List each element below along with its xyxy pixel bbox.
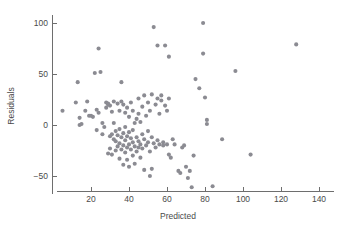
data-point [150, 135, 154, 139]
data-point [150, 92, 154, 96]
data-point [146, 101, 150, 105]
data-point [211, 184, 215, 188]
data-point [76, 80, 80, 84]
data-point [192, 154, 196, 158]
data-point [112, 121, 116, 125]
data-point [78, 116, 82, 120]
data-point [142, 168, 146, 172]
data-point [97, 111, 101, 115]
data-point [140, 105, 144, 109]
x-axis-tick-label: 120 [274, 194, 288, 204]
y-axis-tick-label: 100 [34, 18, 48, 28]
data-points-layer [60, 21, 298, 189]
data-point [138, 142, 142, 146]
data-point [110, 153, 114, 157]
data-point [140, 132, 144, 136]
data-point [165, 142, 169, 146]
data-point [184, 165, 188, 169]
data-point [154, 145, 158, 149]
data-point [98, 70, 102, 74]
data-point [205, 122, 209, 126]
data-point [171, 137, 175, 141]
data-point [163, 104, 167, 108]
data-point [173, 142, 177, 146]
data-point [123, 125, 127, 129]
data-point [112, 99, 116, 103]
data-point [148, 174, 152, 178]
data-point [193, 77, 197, 81]
data-point [123, 150, 127, 154]
data-point [95, 128, 99, 132]
data-point [233, 69, 237, 73]
data-point [133, 144, 137, 148]
data-point [188, 169, 192, 173]
data-point [133, 162, 137, 166]
data-point [169, 156, 173, 160]
data-point [163, 43, 167, 47]
x-axis-tick-label: 80 [200, 194, 210, 204]
data-point [135, 117, 139, 121]
data-point [150, 167, 154, 171]
data-point [91, 115, 95, 119]
data-point [161, 140, 165, 144]
data-point [142, 137, 146, 141]
data-point [146, 140, 150, 144]
y-axis-title: Residuals [6, 87, 16, 124]
data-point [133, 121, 137, 125]
data-point [100, 121, 104, 125]
data-point [186, 176, 190, 180]
x-axis: 20406080100120140 [57, 187, 334, 204]
data-point [117, 141, 121, 145]
data-point [106, 152, 110, 156]
data-point [129, 147, 133, 151]
data-point [74, 101, 78, 105]
data-point [201, 52, 205, 56]
data-point [144, 114, 148, 118]
data-point [131, 128, 135, 132]
data-point [131, 154, 135, 158]
data-point [294, 42, 298, 46]
data-point [152, 25, 156, 29]
data-point [155, 96, 159, 100]
x-axis-tick-label: 140 [312, 194, 326, 204]
x-axis-tick-label: 100 [236, 194, 250, 204]
data-point [205, 118, 209, 122]
data-point [148, 149, 152, 153]
data-point [110, 132, 114, 136]
y-axis-tick-label: 50 [39, 69, 49, 79]
data-point [123, 111, 127, 115]
data-point [167, 96, 171, 100]
data-point [129, 101, 133, 105]
data-point [121, 143, 125, 147]
data-point [140, 146, 144, 150]
data-point [119, 135, 123, 139]
data-point [159, 93, 163, 97]
data-point [148, 109, 152, 113]
data-point [116, 133, 120, 137]
data-point [138, 120, 142, 124]
data-point [121, 131, 125, 135]
data-point [79, 122, 83, 126]
scatter-plot-figure: −50050100 20406080100120140 Predicted Re… [0, 0, 350, 227]
data-point [201, 21, 205, 25]
y-axis: −50050100 [34, 15, 57, 195]
data-point [117, 127, 121, 131]
data-point [129, 136, 133, 140]
data-point [127, 130, 131, 134]
data-point [203, 95, 207, 99]
data-point [114, 148, 118, 152]
data-point [117, 157, 121, 161]
data-point [154, 103, 158, 107]
data-point [60, 109, 64, 113]
data-point [110, 110, 114, 114]
data-point [117, 109, 121, 113]
x-axis-title: Predicted [160, 211, 196, 221]
data-point [182, 143, 186, 147]
data-point [119, 147, 123, 151]
data-point [100, 132, 104, 136]
data-point [157, 112, 161, 116]
data-point [127, 165, 131, 169]
data-point [114, 129, 118, 133]
data-point [127, 115, 131, 119]
data-point [93, 71, 97, 75]
